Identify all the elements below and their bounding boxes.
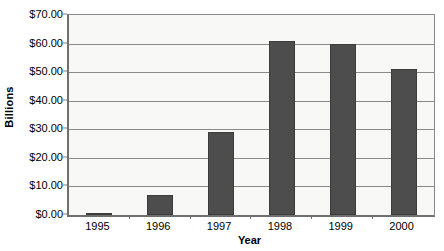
bar bbox=[86, 213, 112, 215]
y-axis-tick-label: $40.00 bbox=[29, 94, 63, 106]
y-axis-tick-labels: $0.00$10.00$20.00$30.00$40.00$50.00$60.0… bbox=[14, 0, 67, 220]
bar bbox=[330, 44, 356, 215]
bar bbox=[208, 132, 234, 215]
category-tick-mark bbox=[190, 215, 191, 219]
bar-slot bbox=[373, 15, 434, 215]
bar bbox=[391, 69, 417, 215]
y-axis-tick-label: $0.00 bbox=[35, 208, 63, 220]
plot-area bbox=[67, 14, 435, 217]
y-axis-tick-label: $60.00 bbox=[29, 37, 63, 49]
bar-slot bbox=[312, 15, 373, 215]
y-axis-tick-label: $10.00 bbox=[29, 179, 63, 191]
bar-series bbox=[69, 15, 434, 215]
x-axis-title: Year bbox=[67, 234, 432, 246]
bar-chart: Billions $0.00$10.00$20.00$30.00$40.00$5… bbox=[0, 0, 444, 251]
bar bbox=[147, 195, 173, 215]
category-tick-mark bbox=[250, 215, 251, 219]
bar-slot bbox=[191, 15, 252, 215]
y-axis-tick-label: $50.00 bbox=[29, 65, 63, 77]
category-tick-mark bbox=[129, 215, 130, 219]
bar-slot bbox=[130, 15, 191, 215]
category-tick-mark bbox=[372, 215, 373, 219]
bar-slot bbox=[69, 15, 130, 215]
y-axis-tick-label: $20.00 bbox=[29, 151, 63, 163]
bar bbox=[269, 41, 295, 215]
category-tick-mark bbox=[311, 215, 312, 219]
y-axis-tick-label: $30.00 bbox=[29, 122, 63, 134]
y-axis-tick-label: $70.00 bbox=[29, 8, 63, 20]
bar-slot bbox=[251, 15, 312, 215]
